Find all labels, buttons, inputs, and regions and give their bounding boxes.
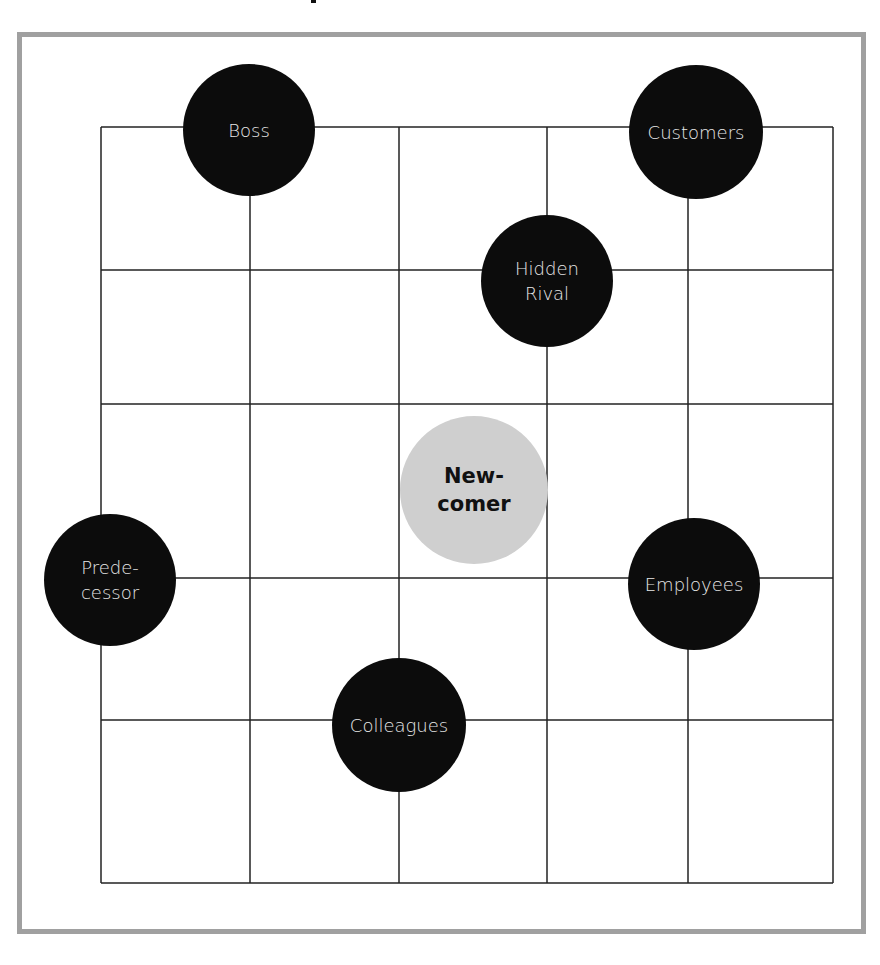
boss-label: Boss: [228, 118, 270, 143]
hidden-rival-label: Hidden Rival: [515, 256, 579, 306]
predecessor-label: Prede- cessor: [81, 555, 139, 605]
customers-node: Customers: [629, 65, 763, 199]
hidden-rival-node: Hidden Rival: [481, 215, 613, 347]
employees-node: Employees: [628, 518, 760, 650]
colleagues-node: Colleagues: [332, 658, 466, 792]
employees-label: Employees: [645, 572, 744, 597]
colleagues-label: Colleagues: [350, 713, 448, 738]
newcomer-label: New- comer: [437, 462, 510, 518]
newcomer-node: New- comer: [400, 416, 548, 564]
predecessor-node: Prede- cessor: [44, 514, 176, 646]
customers-label: Customers: [648, 120, 745, 145]
boss-node: Boss: [183, 64, 315, 196]
